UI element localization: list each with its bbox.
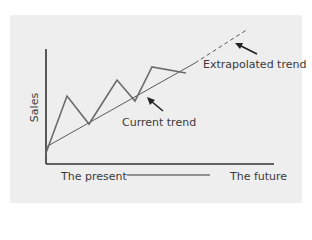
current-trend-label: Current trend <box>122 117 196 128</box>
y-axis-label: Sales <box>29 93 40 122</box>
extrapolated-arrow-icon <box>235 43 257 54</box>
x-left-label: The present <box>61 171 127 182</box>
current-trend-line <box>46 63 195 147</box>
current-arrow-icon <box>147 97 163 111</box>
x-right-label: The future <box>230 171 287 182</box>
extrapolated-trend-label: Extrapolated trend <box>203 59 306 70</box>
